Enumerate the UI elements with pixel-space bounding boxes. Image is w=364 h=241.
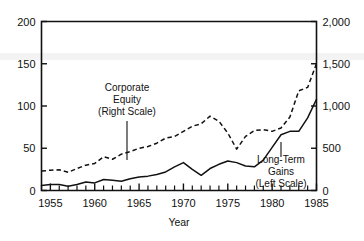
annotation-long-term-gains-line1: Long-Term [257, 154, 305, 165]
x-ticklabel: 1980 [260, 197, 284, 209]
right-ticklabel: 2,000 [323, 16, 351, 28]
left-ticklabel: 100 [17, 100, 35, 112]
annotation-corporate-equity-line1: Corporate [105, 82, 150, 93]
left-axis-ticklabels: 050100150200 [17, 16, 35, 197]
right-ticklabel: 1,500 [323, 58, 351, 70]
annotation-long-term-gains-line3: (Left Scale) [255, 178, 306, 189]
x-ticklabel: 1975 [216, 197, 240, 209]
x-ticklabel: 1985 [304, 197, 328, 209]
chart-figure: 050100150200 05001,0001,5002,000 1955196… [0, 0, 364, 241]
x-ticklabel: 1970 [171, 197, 195, 209]
right-ticklabel: 500 [323, 142, 341, 154]
x-ticklabel: 1955 [38, 197, 62, 209]
x-ticklabel: 1965 [127, 197, 151, 209]
scan-artifact-band [0, 53, 364, 60]
left-ticklabel: 150 [17, 58, 35, 70]
right-ticklabel: 0 [323, 185, 329, 197]
annotation-long-term-gains: Long-Term Gains (Left Scale) [255, 142, 306, 189]
x-axis-title: Year [168, 216, 190, 228]
annotation-corporate-equity: Corporate Equity (Right Scale) [98, 82, 156, 160]
x-axis-ticklabels: 1955196019651970197519801985 [38, 197, 329, 209]
x-ticklabel: 1960 [82, 197, 106, 209]
left-ticklabel: 0 [29, 185, 35, 197]
left-ticklabel: 200 [17, 16, 35, 28]
left-ticklabel: 50 [23, 142, 35, 154]
left-axis-ticks [42, 22, 48, 191]
chart-svg: 050100150200 05001,0001,5002,000 1955196… [0, 0, 364, 241]
annotation-long-term-gains-line2: Gains [268, 166, 294, 177]
annotation-corporate-equity-line3: (Right Scale) [98, 106, 156, 117]
right-axis-ticklabels: 05001,0001,5002,000 [323, 16, 351, 197]
right-ticklabel: 1,000 [323, 100, 351, 112]
annotation-corporate-equity-line2: Equity [113, 94, 141, 105]
